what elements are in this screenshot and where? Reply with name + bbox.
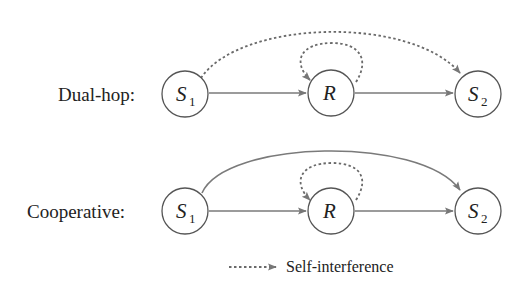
row-cooperative: Cooperative: S 1 R S 2 (27, 151, 501, 234)
legend: Self-interference (229, 258, 393, 275)
row-label-dual-hop: Dual-hop: (58, 84, 135, 105)
node-r: R (308, 188, 354, 234)
relay-diagram: Dual-hop: S 1 R S 2 Cooperative: (0, 0, 530, 292)
svg-text:R: R (322, 199, 336, 223)
node-s1: S 1 (162, 71, 208, 117)
row-label-cooperative: Cooperative: (27, 201, 125, 222)
svg-text:1: 1 (189, 94, 196, 109)
node-s1: S 1 (162, 188, 208, 234)
row-dual-hop: Dual-hop: S 1 R S 2 (58, 32, 501, 117)
node-s2: S 2 (455, 188, 501, 234)
svg-text:R: R (322, 81, 336, 105)
svg-text:S: S (176, 82, 187, 106)
svg-text:S: S (176, 199, 187, 223)
svg-text:S: S (468, 199, 479, 223)
svg-text:S: S (468, 82, 479, 106)
direct-link-s1-s2 (202, 151, 460, 193)
svg-text:2: 2 (481, 94, 488, 109)
node-r: R (308, 70, 354, 116)
svg-text:1: 1 (189, 211, 196, 226)
legend-label: Self-interference (286, 258, 393, 275)
node-s2: S 2 (455, 71, 501, 117)
svg-text:2: 2 (481, 211, 488, 226)
